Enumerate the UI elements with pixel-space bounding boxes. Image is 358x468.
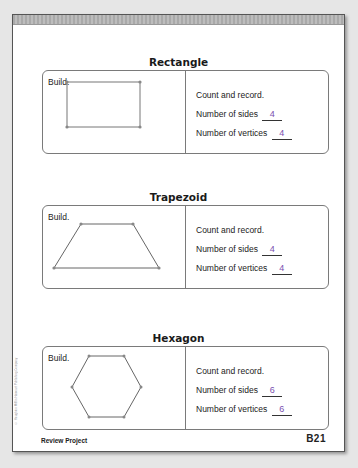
sides-answer[interactable]: 4 <box>262 245 282 256</box>
vertices-answer[interactable]: 4 <box>272 129 292 140</box>
sides-row: Number of sides 6 <box>196 385 282 397</box>
vertices-answer[interactable]: 4 <box>272 264 292 275</box>
rectangle-shape-icon <box>43 71 185 155</box>
vertices-row: Number of vertices 4 <box>196 128 292 140</box>
section-title-hexagon: Hexagon <box>13 332 344 344</box>
footer-label: Review Project <box>41 437 87 444</box>
worksheet-page: Rectangle Build. Count and record. Numbe… <box>12 14 345 452</box>
sides-answer[interactable]: 6 <box>262 386 282 397</box>
top-decorative-band <box>13 15 344 25</box>
copyright-notice: © Houghton Mifflin Harcourt Publishing C… <box>14 315 24 425</box>
card-divider <box>185 347 186 429</box>
vertices-row: Number of vertices 6 <box>196 404 292 416</box>
vertices-label: Number of vertices <box>196 263 267 273</box>
sides-label: Number of sides <box>196 109 258 119</box>
vertices-label: Number of vertices <box>196 404 267 414</box>
record-heading: Count and record. <box>196 366 264 376</box>
card-divider <box>185 206 186 288</box>
card-hexagon: Build. Count and record. Number of sides… <box>42 346 329 430</box>
record-heading: Count and record. <box>196 90 264 100</box>
sides-row: Number of sides 4 <box>196 244 282 256</box>
vertices-row: Number of vertices 4 <box>196 263 292 275</box>
hexagon-shape-icon <box>43 347 185 431</box>
vertices-answer[interactable]: 6 <box>272 405 292 416</box>
page-number: B21 <box>306 433 326 444</box>
sides-label: Number of sides <box>196 385 258 395</box>
card-rectangle: Build. Count and record. Number of sides… <box>42 70 329 154</box>
section-title-rectangle: Rectangle <box>13 56 344 68</box>
section-title-trapezoid: Trapezoid <box>13 191 344 203</box>
sides-answer[interactable]: 4 <box>262 110 282 121</box>
card-trapezoid: Build. Count and record. Number of sides… <box>42 205 329 289</box>
trapezoid-shape-icon <box>43 206 185 290</box>
sides-row: Number of sides 4 <box>196 109 282 121</box>
sides-label: Number of sides <box>196 244 258 254</box>
card-divider <box>185 71 186 153</box>
record-heading: Count and record. <box>196 225 264 235</box>
vertices-label: Number of vertices <box>196 128 267 138</box>
